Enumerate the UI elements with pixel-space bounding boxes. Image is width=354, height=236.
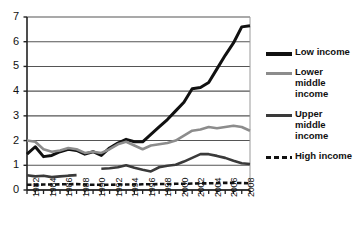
legend-swatch [266,108,292,118]
x-axis-tick-label: 2006 [229,178,239,197]
x-axis-tick-label: 1996 [147,178,157,197]
y-axis-tick-label: 1 [3,159,19,169]
line-chart-svg [0,0,262,236]
series-line-upper-middle-income-seg1 [101,154,250,171]
y-axis-tick-label: 3 [3,110,19,120]
x-axis-tick-label: 1990 [97,178,107,197]
legend-item: Upper middle income [266,108,354,141]
x-axis-tick-label: 1986 [64,178,74,197]
x-axis-tick-label: 2000 [180,178,190,197]
y-axis-tick-label: 4 [3,85,19,95]
legend-item: Low income [266,46,354,57]
y-axis-tick-label: 0 [3,184,19,194]
series-line-lower-middle-income [27,126,250,153]
legend-item: Lower middle income [266,66,354,99]
plot-area: 01234567 1982198419861988199019921994199… [0,0,262,236]
legend-swatch [266,150,292,160]
x-axis-tick-label: 2002 [196,178,206,197]
y-axis-tick-label: 7 [3,11,19,21]
y-axis-tick-label: 6 [3,36,19,46]
legend-line-icon [266,71,292,76]
x-axis-tick-label: 1984 [48,178,58,197]
legend-label: Low income [292,46,350,57]
x-axis-tick-label: 1998 [163,178,173,197]
legend-swatch [266,46,292,57]
y-axis-tick-label: 5 [3,60,19,70]
x-axis-tick-label: 1994 [130,178,140,197]
legend-item: High income [266,150,354,161]
x-axis-tick-label: 2008 [246,178,256,197]
x-axis-tick-label: 1988 [81,178,91,197]
legend-line-icon [266,155,292,160]
legend-label: High income [292,150,352,161]
y-axis-tick-label: 2 [3,135,19,145]
x-axis-tick-label: 2004 [213,178,223,197]
chart-figure: 01234567 1982198419861988199019921994199… [0,0,354,236]
legend-label: Lower middle income [292,66,354,99]
legend-swatch [266,66,292,76]
legend-label: Upper middle income [292,108,354,141]
legend-line-icon [266,113,292,118]
x-axis-tick-label: 1982 [31,178,41,197]
chart-legend: Low incomeLower middle incomeUpper middl… [266,46,354,170]
x-axis-tick-label: 1992 [114,178,124,197]
legend-line-icon [266,51,292,57]
